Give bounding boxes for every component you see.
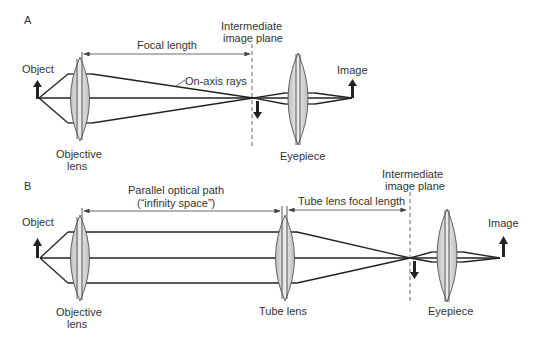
object-label: Object bbox=[22, 63, 54, 75]
object-label: Object bbox=[22, 216, 54, 228]
objective-lens-label: Objective bbox=[56, 306, 102, 318]
on-axis-rays-leader bbox=[176, 80, 185, 86]
eyepiece-label: Eyepiece bbox=[280, 150, 325, 162]
image-arrow-icon bbox=[499, 236, 508, 257]
intermediate-plane-label-2: image plane bbox=[385, 180, 445, 192]
eyepiece-label: Eyepiece bbox=[428, 305, 473, 317]
image-label: Image bbox=[337, 64, 368, 76]
panel-b: B Object Ob bbox=[22, 168, 519, 330]
intermediate-plane-label: Intermediate bbox=[382, 168, 443, 180]
panel-a-label: A bbox=[24, 14, 32, 26]
panel-a: A Object bbox=[22, 14, 368, 172]
parallel-path-label: Parallel optical path bbox=[128, 184, 224, 196]
eyepiece-lens bbox=[288, 53, 308, 145]
intermediate-image-arrow-icon bbox=[410, 261, 419, 279]
objective-lens-label: Objective bbox=[56, 148, 102, 160]
tube-lens-label: Tube lens bbox=[259, 305, 307, 317]
intermediate-plane-label: Intermediate bbox=[221, 20, 282, 32]
intermediate-image-arrow-icon bbox=[253, 101, 262, 119]
objective-lens-label-2: lens bbox=[67, 160, 88, 172]
objective-lens-label-2: lens bbox=[67, 318, 88, 330]
parallel-rays bbox=[40, 232, 500, 283]
panel-b-label: B bbox=[24, 180, 31, 192]
infinity-space-label: (“infinity space”) bbox=[137, 197, 215, 209]
object-arrow-icon bbox=[33, 238, 42, 258]
focal-length-label: Focal length bbox=[137, 39, 197, 51]
objective-lens bbox=[71, 52, 90, 141]
on-axis-rays-label: On-axis rays bbox=[185, 75, 247, 87]
infinity-optics-diagram: A Object bbox=[0, 0, 541, 343]
tube-lens-focal-length-label: Tube lens focal length bbox=[298, 195, 405, 207]
intermediate-plane-label-2: image plane bbox=[223, 32, 283, 44]
eyepiece-lens bbox=[437, 209, 457, 302]
objective-lens bbox=[71, 208, 90, 301]
image-label: Image bbox=[488, 217, 519, 229]
tube-lens bbox=[276, 206, 295, 301]
image-arrow-icon bbox=[348, 79, 357, 98]
